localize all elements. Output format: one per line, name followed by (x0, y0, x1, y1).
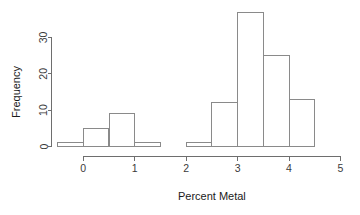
histogram-bar (83, 128, 109, 146)
x-axis-tick-label: 5 (338, 162, 344, 174)
y-axis-tick-label: 20 (38, 68, 50, 80)
histogram-bar (58, 143, 84, 147)
x-axis-tick-label: 4 (286, 162, 292, 174)
x-axis-tick-label: 2 (183, 162, 189, 174)
histogram-bar (238, 12, 264, 147)
x-axis-tick-label: 3 (235, 162, 241, 174)
x-axis-tick-label: 1 (132, 162, 138, 174)
histogram-bar (135, 143, 161, 147)
x-axis-title: Percent Metal (178, 190, 246, 202)
histogram-bar (109, 114, 135, 147)
y-axis-title: Frequency (10, 66, 22, 118)
y-axis-tick-label: 30 (38, 31, 50, 43)
histogram-bar (263, 56, 289, 147)
histogram-bar (186, 143, 212, 147)
y-axis-tick-label: 10 (38, 104, 50, 116)
histogram-plot: 0102030012345Percent MetalFrequency (0, 0, 360, 215)
y-axis-tick-label: 0 (38, 143, 50, 149)
histogram-canvas: 0102030012345Percent MetalFrequency (0, 0, 360, 215)
x-axis-tick-label: 0 (80, 162, 86, 174)
histogram-bar (289, 99, 315, 146)
histogram-bar (212, 103, 238, 147)
